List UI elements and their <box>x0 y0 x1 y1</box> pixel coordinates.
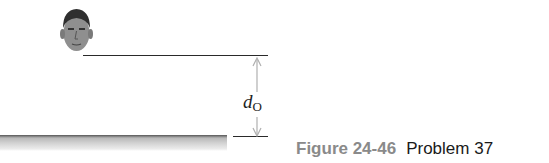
problem-number: Problem 37 <box>406 139 493 158</box>
distance-label: dO <box>242 92 263 117</box>
eye-level-line <box>83 55 268 56</box>
diagram-figure: dO Figure 24-46Problem 37 <box>0 0 549 163</box>
figure-number: Figure 24-46 <box>296 139 396 158</box>
figure-caption: Figure 24-46Problem 37 <box>296 139 493 159</box>
head-icon <box>58 6 95 56</box>
mirror-surface <box>0 135 227 151</box>
